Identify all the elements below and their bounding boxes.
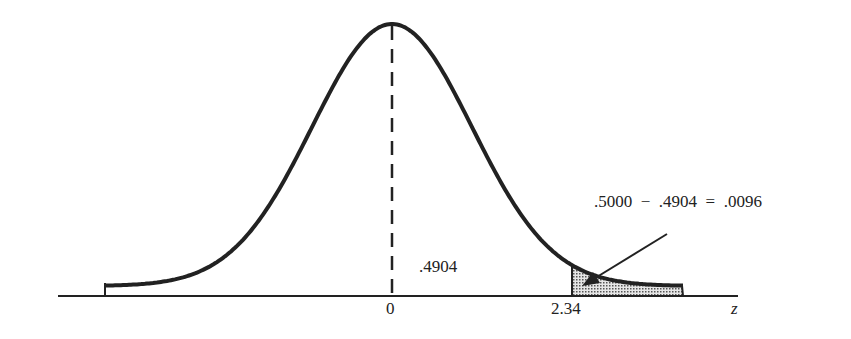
z-value-tick-label: 2.34 [551,299,581,319]
center-tick-label: 0 [386,299,395,319]
area-label: .4904 [419,257,457,277]
normal-curve-diagram [0,0,851,339]
tail-equation-label: .5000 − .4904 = .0096 [594,192,762,212]
annotation-arrow [592,234,667,280]
bell-curve [105,24,683,286]
axis-label: z [731,299,738,319]
